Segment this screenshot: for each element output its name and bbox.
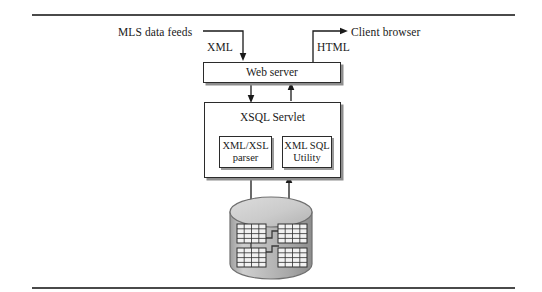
label-xml: XML: [207, 41, 233, 53]
xml-sql-utility-label-line2: Utility: [293, 152, 320, 165]
xml-xsl-parser-label-line1: XML/XSL: [222, 140, 268, 153]
node-web-server: Web server: [203, 62, 341, 83]
node-xsql-servlet: XSQL Servlet XML/XSL parser XML SQL Util…: [204, 102, 341, 178]
node-xml-sql-utility: XML SQL Utility: [282, 136, 332, 168]
database-cylinder-icon: [230, 197, 312, 279]
xml-xsl-parser-label-line2: parser: [233, 152, 259, 165]
label-client-browser: Client browser: [351, 26, 420, 38]
xml-sql-utility-label-line1: XML SQL: [284, 140, 329, 153]
xsql-servlet-label: XSQL Servlet: [205, 111, 340, 123]
node-xml-xsl-parser: XML/XSL parser: [219, 136, 272, 168]
diagram-canvas: MLS data feeds XML HTML Client browser W…: [0, 0, 542, 292]
label-mls-data-feeds: MLS data feeds: [118, 26, 192, 38]
label-html: HTML: [317, 41, 350, 53]
web-server-label: Web server: [204, 66, 340, 78]
